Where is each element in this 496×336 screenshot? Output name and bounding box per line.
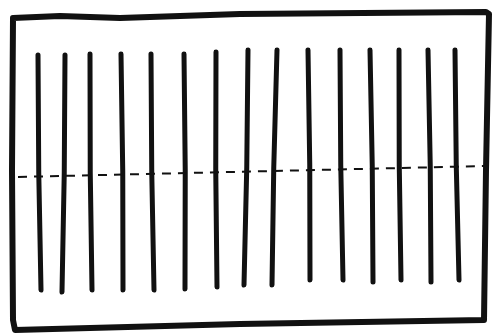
vertical-line [272, 50, 277, 285]
vertical-line [62, 55, 65, 292]
vertical-line [428, 50, 431, 282]
vertical-line [340, 50, 343, 280]
diagram-canvas [0, 0, 496, 336]
vertical-line [244, 50, 248, 285]
vertical-line [455, 50, 459, 280]
vertical-line [121, 54, 123, 290]
vertical-line [184, 54, 185, 289]
vertical-line [399, 50, 401, 280]
vertical-line [38, 55, 41, 290]
vertical-line [370, 50, 373, 282]
vertical-line [308, 50, 310, 280]
vertical-line [90, 54, 92, 290]
vertical-line [216, 52, 217, 287]
vertical-line [151, 54, 154, 290]
